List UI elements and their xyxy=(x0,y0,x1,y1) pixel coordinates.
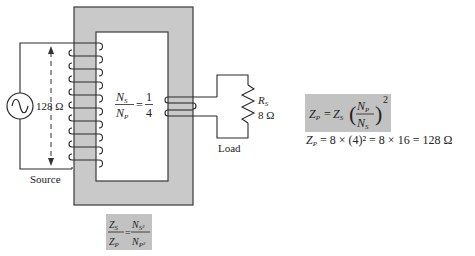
load-label: Load xyxy=(218,142,241,154)
svg-text:): ) xyxy=(375,101,382,126)
svg-text:=: = xyxy=(324,107,331,121)
svg-text:2: 2 xyxy=(383,94,388,105)
svg-text:1: 1 xyxy=(146,90,152,104)
resistor-icon xyxy=(242,85,254,123)
ac-source-icon xyxy=(7,93,33,119)
primary-impedance-formula: ZP = ZS ( NP NS ) 2 xyxy=(305,94,391,132)
transformer-diagram: 128 Ω Source NS NP = 1 4 RS 8 Ω Load ZP … xyxy=(0,0,475,256)
transformer-core xyxy=(74,7,193,205)
svg-text:=: = xyxy=(136,98,143,112)
impedance-ratio-formula: ZS ZP = NS² NP² xyxy=(106,214,152,250)
svg-text:=: = xyxy=(125,227,131,238)
primary-impedance-label: 128 Ω xyxy=(36,100,63,112)
load-resistor-value: 8 Ω xyxy=(258,109,274,121)
calculation-line: ZP= 8 × (4)² = 8 × 16 = 128 Ω xyxy=(306,133,452,148)
load-circuit xyxy=(217,75,254,138)
svg-text:(: ( xyxy=(349,101,356,126)
source-label: Source xyxy=(30,173,61,185)
svg-text:4: 4 xyxy=(146,106,152,120)
load-resistor-name: RS xyxy=(257,94,269,108)
